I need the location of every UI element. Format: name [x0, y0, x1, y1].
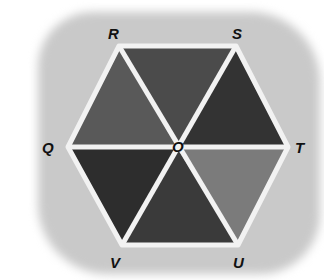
vertex-label-s: S — [232, 26, 242, 41]
vertex-label-r: R — [108, 26, 119, 41]
center-label-o: O — [172, 139, 184, 154]
vertex-label-v: V — [110, 255, 120, 270]
vertex-label-u: U — [233, 255, 244, 270]
vertex-label-t: T — [295, 140, 304, 155]
vertex-label-q: Q — [42, 140, 54, 155]
